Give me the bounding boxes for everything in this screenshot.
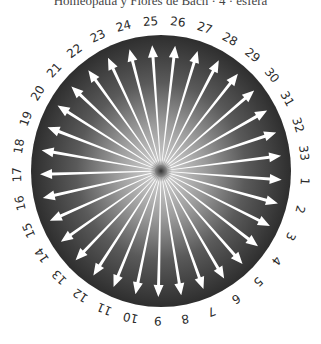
dial-label-11: 11: [95, 300, 115, 319]
dial-label-29: 29: [242, 45, 263, 66]
radial-dial-diagram: 1234567891011121314151617181920212223242…: [0, 0, 321, 344]
dial-label-10: 10: [122, 309, 140, 326]
dial-label-18: 18: [11, 138, 27, 155]
dial-label-20: 20: [28, 83, 48, 103]
dial-label-6: 6: [229, 291, 243, 307]
center-dot: [150, 160, 172, 182]
dial-label-5: 5: [250, 274, 265, 289]
dial-label-16: 16: [12, 194, 29, 212]
dial-label-25: 25: [142, 14, 158, 29]
dial-label-7: 7: [206, 304, 218, 320]
dial-label-4: 4: [269, 253, 285, 267]
dial-label-15: 15: [19, 220, 38, 240]
dial-label-31: 31: [277, 89, 297, 109]
dial-label-14: 14: [32, 245, 52, 266]
dial-label-23: 23: [88, 27, 108, 46]
dial-label-1: 1: [297, 177, 311, 186]
dial-label-17: 17: [10, 167, 24, 183]
dial-label-32: 32: [289, 116, 307, 135]
dial-label-2: 2: [292, 204, 307, 215]
dial-label-21: 21: [44, 60, 65, 81]
dial-label-13: 13: [49, 267, 70, 288]
dial-label-27: 27: [195, 19, 214, 37]
dial-label-33: 33: [296, 145, 312, 162]
dial-label-12: 12: [70, 285, 90, 305]
dial-label-24: 24: [114, 17, 132, 34]
dial-label-9: 9: [154, 314, 162, 328]
dial-label-30: 30: [262, 65, 283, 86]
dial-label-28: 28: [220, 29, 240, 49]
dial-label-22: 22: [64, 41, 85, 61]
dial-label-8: 8: [180, 311, 190, 326]
dial-label-19: 19: [17, 109, 35, 128]
dial-label-26: 26: [169, 14, 186, 30]
dial-label-3: 3: [283, 230, 299, 243]
